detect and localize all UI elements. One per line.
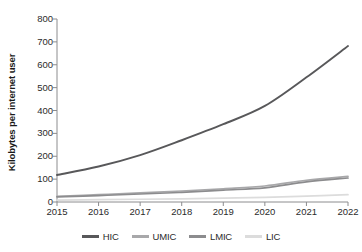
x-axis-tick-label: 2021: [286, 206, 326, 217]
y-axis-tick-label: 200: [25, 151, 53, 161]
legend-swatch-icon: [189, 235, 206, 237]
legend-label: UMIC: [153, 231, 176, 242]
x-axis-tick-label: 2017: [120, 206, 160, 217]
y-axis-tick-label: 500: [25, 83, 53, 93]
line-chart: Kilobytes per internet user 010020030040…: [0, 0, 362, 252]
x-axis-tick-label: 2016: [79, 206, 119, 217]
chart-legend: HICUMICLMICLIC: [0, 231, 362, 242]
series-line-hic: [57, 46, 348, 175]
legend-label: LMIC: [210, 231, 232, 242]
y-axis-title: Kilobytes per internet user: [6, 28, 17, 198]
legend-item-umic[interactable]: UMIC: [132, 231, 176, 242]
y-axis-tick-label: 300: [25, 128, 53, 138]
series-line-umic: [57, 176, 348, 196]
x-axis-tick-label: 2019: [203, 206, 243, 217]
y-axis-tick-label: 800: [25, 14, 53, 24]
x-axis-tick-label: 2015: [37, 206, 77, 217]
y-axis-tick-label: 400: [25, 106, 53, 116]
y-axis-tick-label: 600: [25, 60, 53, 70]
legend-label: LIC: [266, 231, 280, 242]
legend-item-hic[interactable]: HIC: [82, 231, 119, 242]
legend-swatch-icon: [245, 235, 262, 237]
legend-item-lmic[interactable]: LMIC: [189, 231, 232, 242]
legend-swatch-icon: [82, 235, 99, 237]
legend-item-lic[interactable]: LIC: [245, 231, 280, 242]
x-axis-tick-label: 2022: [328, 206, 362, 217]
y-axis-tick-label: 100: [25, 174, 53, 184]
y-axis-tick-label: 700: [25, 37, 53, 47]
x-axis-tick-label: 2018: [162, 206, 202, 217]
x-axis-tick-label: 2020: [245, 206, 285, 217]
legend-label: HIC: [103, 231, 119, 242]
legend-swatch-icon: [132, 235, 149, 237]
